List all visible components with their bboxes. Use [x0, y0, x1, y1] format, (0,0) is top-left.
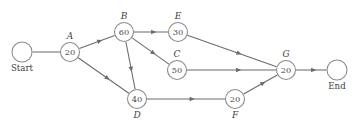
edge-line — [78, 58, 129, 94]
node-F[interactable]: 20F — [226, 90, 245, 120]
arrow-head-icon — [128, 66, 133, 72]
edge-line — [79, 35, 114, 48]
node-duration-value: 20 — [65, 47, 75, 57]
node-G[interactable]: 20G — [277, 49, 296, 79]
node-C[interactable]: 50C — [168, 49, 187, 79]
edge-G-to-end — [296, 68, 327, 73]
arrow-head-icon — [104, 75, 110, 80]
arrow-head-icon — [311, 68, 316, 73]
node-A[interactable]: 20A — [61, 31, 80, 61]
node-duration-value: 40 — [132, 94, 142, 104]
arrow-head-icon — [150, 50, 156, 55]
terminal-label: Start — [11, 63, 34, 73]
node-circle[interactable] — [327, 60, 347, 80]
edge-line — [132, 38, 169, 64]
edge-F-to-G — [244, 75, 278, 94]
edge-A-to-D — [78, 58, 129, 94]
node-B[interactable]: 60B — [115, 11, 134, 41]
node-name-label: D — [132, 110, 140, 120]
node-name-label: B — [120, 11, 128, 21]
edge-line — [244, 75, 278, 94]
node-start[interactable]: Start — [11, 42, 34, 73]
edge-line — [187, 35, 276, 66]
edge-B-to-C — [132, 38, 169, 64]
edge-C-to-G — [187, 68, 276, 73]
node-duration-value: 60 — [119, 27, 129, 37]
arrow-head-icon — [151, 30, 156, 35]
network-diagram-canvas: Start20A60B30E50C20G40D20FEnd — [0, 0, 358, 126]
arrow-head-icon — [236, 50, 242, 54]
edge-E-to-G — [187, 35, 276, 66]
edge-line — [126, 42, 135, 89]
node-circle[interactable] — [12, 42, 32, 62]
node-duration-value: 50 — [172, 65, 182, 75]
node-end[interactable]: End — [327, 60, 347, 91]
terminal-label: End — [328, 81, 346, 91]
node-duration-value: 20 — [281, 65, 291, 75]
arrow-head-icon — [190, 97, 195, 102]
node-name-label: A — [66, 31, 74, 41]
node-duration-value: 20 — [230, 94, 240, 104]
node-name-label: G — [282, 49, 289, 59]
node-duration-value: 30 — [173, 27, 183, 37]
node-name-label: E — [174, 11, 182, 21]
nodes-layer: Start20A60B30E50C20G40D20FEnd — [11, 11, 347, 119]
edge-A-to-B — [79, 35, 114, 48]
arrow-head-icon — [97, 40, 103, 44]
node-name-label: C — [174, 49, 181, 59]
node-D[interactable]: 40D — [128, 90, 147, 120]
node-name-label: F — [231, 110, 239, 120]
edge-B-to-D — [126, 42, 135, 89]
edge-B-to-E — [134, 30, 168, 35]
arrow-head-icon — [236, 68, 241, 73]
node-E[interactable]: 30E — [169, 11, 188, 41]
network-diagram: Start20A60B30E50C20G40D20FEnd — [0, 0, 358, 126]
edge-D-to-F — [147, 97, 225, 102]
